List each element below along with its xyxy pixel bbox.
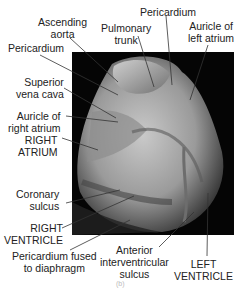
label-pericardium-top: Pericardium [140,6,196,18]
heart-photo [72,52,234,235]
label-ascending-aorta: Ascendingaorta [38,16,87,40]
label-right-ventricle: RIGHTVENTRICLE [4,222,63,246]
label-superior-vena-cava: Superiorvena cava [16,76,64,100]
label-pericardium-left: Pericardium [8,42,64,54]
heart-illustration [72,52,234,235]
label-left-ventricle: LEFTVENTRICLE [174,258,233,282]
label-pulmonary-trunk: Pulmonarytrunk [101,22,151,46]
label-auricle-left-atrium: Auricle ofleft atrium [188,20,234,44]
label-pericardium-fused: Pericardium fusedto diaphragm [12,250,97,274]
label-anterior-interventricular-sulcus: Anteriorinterventricularsulcus [100,244,169,280]
label-coronary-sulcus: Coronarysulcus [16,188,59,212]
label-auricle-right-atrium: Auricle ofright atrium [8,110,61,134]
figure-caption: (b) [116,280,125,287]
label-right-atrium: RIGHTATRIUM [18,134,57,158]
